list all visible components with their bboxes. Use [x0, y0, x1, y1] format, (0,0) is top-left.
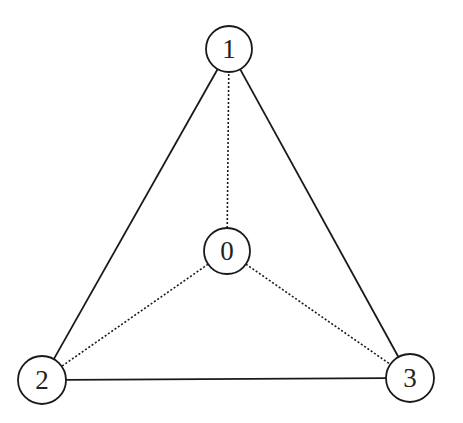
edge-0-3 — [246, 264, 390, 364]
edge-1-3 — [240, 69, 398, 357]
edge-0-1 — [227, 72, 229, 228]
node-label: 2 — [35, 365, 49, 395]
edge-0-2 — [62, 264, 208, 366]
node-2: 2 — [18, 356, 66, 404]
node-1: 1 — [206, 26, 252, 72]
edge-2-3 — [66, 378, 386, 380]
node-label: 3 — [403, 363, 417, 393]
node-3: 3 — [386, 354, 434, 402]
node-label: 1 — [222, 34, 236, 64]
edges-layer — [54, 69, 399, 380]
graph-diagram: 0123 — [0, 0, 463, 423]
node-0: 0 — [204, 228, 250, 274]
nodes-layer: 0123 — [18, 26, 434, 404]
node-label: 0 — [220, 236, 234, 266]
